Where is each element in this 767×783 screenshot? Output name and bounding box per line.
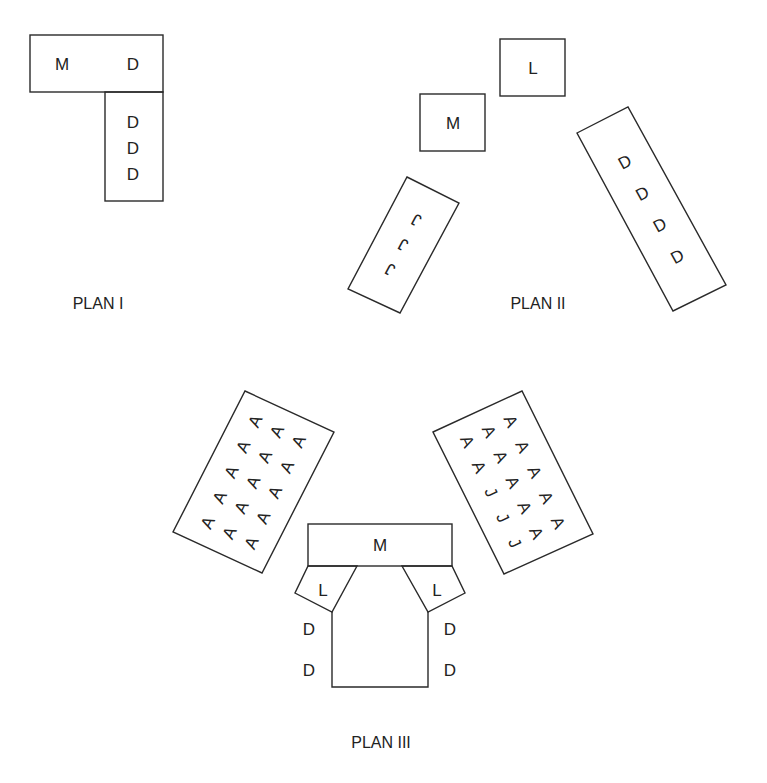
plan3-a-label: A xyxy=(209,488,231,507)
plan-2: L M J J J D D D D PLAN II xyxy=(348,39,726,313)
plan1-caption: PLAN I xyxy=(73,295,124,312)
plan3-m-label: M xyxy=(373,536,387,555)
plan3-a-label: A xyxy=(231,498,253,517)
plan3-a-label: A xyxy=(219,523,241,542)
plan3-a-label: A xyxy=(523,463,545,482)
plan3-a-label: A xyxy=(502,473,524,492)
plan3-a-label: A xyxy=(254,447,276,466)
plan3-left-l-label: L xyxy=(318,581,327,600)
plan3-a-label: A xyxy=(244,412,266,431)
plan3-a-label: A xyxy=(535,488,557,507)
plan3-a-label: A xyxy=(288,432,310,451)
plan3-center-table xyxy=(332,612,428,687)
plan2-caption: PLAN II xyxy=(510,295,565,312)
plan3-j-label: J xyxy=(492,510,513,526)
plan-1: M D D D D PLAN I xyxy=(30,35,163,312)
plan3-a-label: A xyxy=(197,513,219,532)
plan3-a-label: A xyxy=(266,422,288,441)
plan-3: A A A A A A A A A A A A A A A xyxy=(173,391,593,751)
plan1-d-label: D xyxy=(127,139,139,158)
plan3-a-label: A xyxy=(525,524,547,543)
plan3-right-d-label: D xyxy=(444,661,456,680)
plan2-j-label: J xyxy=(408,209,424,230)
plan3-a-label: A xyxy=(468,458,490,477)
plan3-a-label: A xyxy=(456,432,478,451)
plan3-j-label: J xyxy=(480,484,501,500)
plan3-a-label: A xyxy=(233,437,255,456)
plan3-right-d-label: D xyxy=(444,620,456,639)
plan3-a-label: A xyxy=(547,514,569,533)
plan3-caption: PLAN III xyxy=(351,734,411,751)
plan3-a-label: A xyxy=(500,412,522,431)
plan3-j-label: J xyxy=(504,535,525,551)
plan1-m-label: M xyxy=(55,55,69,74)
plan2-m-label: M xyxy=(446,114,460,133)
plan2-j-label: J xyxy=(382,259,398,280)
plan3-a-label: A xyxy=(242,472,264,491)
plan3-a-label: A xyxy=(264,483,286,502)
plan1-top-block xyxy=(30,35,163,92)
plan3-a-label: A xyxy=(490,448,512,467)
plan3-a-label: A xyxy=(513,498,535,517)
plan2-d-block xyxy=(577,107,726,311)
plan3-left-d-label: D xyxy=(303,620,315,639)
plan2-l-label: L xyxy=(528,59,537,78)
plan3-a-label: A xyxy=(252,508,274,527)
plan3-a-label: A xyxy=(241,533,263,552)
seating-plans-diagram: M D D D D PLAN I L M J J J D D D D PLAN … xyxy=(0,0,767,783)
plan2-d-label: D xyxy=(650,214,670,237)
plan3-a-label: A xyxy=(221,462,243,481)
plan1-d-label: D xyxy=(127,165,139,184)
plan3-a-label: A xyxy=(478,422,500,441)
plan3-right-l-label: L xyxy=(432,581,441,600)
plan1-d-label: D xyxy=(127,55,139,74)
plan3-a-label: A xyxy=(511,438,533,457)
plan2-d-label: D xyxy=(615,151,635,174)
plan3-a-label: A xyxy=(276,457,298,476)
plan1-d-label: D xyxy=(127,113,139,132)
plan2-d-label: D xyxy=(667,245,687,268)
plan2-d-label: D xyxy=(633,182,653,205)
plan2-j-label: J xyxy=(395,234,411,255)
plan3-left-d-label: D xyxy=(303,661,315,680)
